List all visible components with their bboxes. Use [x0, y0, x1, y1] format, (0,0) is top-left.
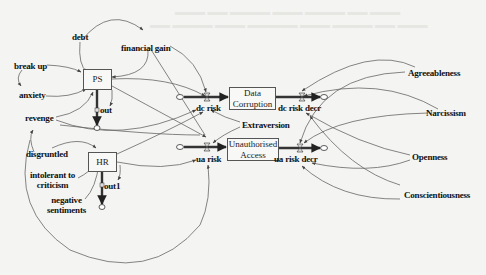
var-agreeableness: Agreeableness — [408, 68, 460, 78]
var-revenge: revenge — [25, 113, 53, 123]
stock-unauthorised-access-line1: Unauthorised — [228, 139, 278, 150]
stock-ps: PS — [83, 69, 112, 90]
flow-label-ua-risk: ua risk — [196, 154, 221, 164]
flow-label-out: out — [100, 105, 112, 115]
var-intolerant-line2: criticism — [30, 180, 75, 190]
stock-unauthorised-access: Unauthorised Access — [227, 138, 279, 161]
var-negative-sentiments: negative sentiments — [47, 195, 86, 215]
stock-hr: HR — [88, 152, 117, 172]
stock-data-corruption-line2: Corruption — [230, 99, 275, 110]
var-narcissism: Narcissism — [426, 108, 466, 118]
flow-label-out1: out1 — [104, 181, 120, 191]
var-openness: Openness — [412, 152, 447, 162]
var-debt: debt — [72, 32, 88, 42]
var-intolerant-line1: intolerant to — [30, 170, 75, 180]
var-financial-gain: financial gain — [121, 43, 170, 53]
flow-label-dc-risk: dc risk — [196, 103, 221, 113]
stock-hr-label: HR — [96, 157, 109, 167]
var-conscientiousness: Conscientiousness — [404, 190, 470, 200]
flow-label-ua-risk-decr: ua risk decr — [274, 154, 318, 164]
flow-label-dc-risk-decr: dc risk decr — [278, 103, 321, 113]
var-negative-line1: negative — [47, 195, 86, 205]
stock-data-corruption-line1: Data — [230, 88, 275, 99]
stock-ps-label: PS — [92, 74, 102, 84]
var-anxiety: anxiety — [19, 90, 46, 100]
var-disgruntled: disgruntled — [26, 149, 68, 159]
var-break-up: break up — [14, 61, 47, 71]
var-negative-line2: sentiments — [47, 205, 86, 215]
var-extraversion: Extraversion — [242, 120, 290, 130]
stock-data-corruption: Data Corruption — [229, 87, 276, 110]
var-intolerant-to-criticism: intolerant to criticism — [30, 170, 75, 190]
stock-unauthorised-access-line2: Access — [228, 150, 278, 161]
